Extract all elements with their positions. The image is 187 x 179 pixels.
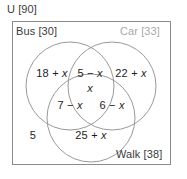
region-value-outside-all: 5 (30, 129, 36, 141)
region-value-bus-only: 18 + x (36, 67, 67, 79)
region-value-bus-walk: 7 − x (57, 99, 82, 111)
set-label-walk: Walk [38] (116, 148, 162, 160)
car-circle (68, 42, 156, 130)
region-value-bus-car-walk: x (87, 82, 93, 94)
region-value-car-walk: 6 − x (99, 99, 124, 111)
set-label-bus: Bus [30] (16, 25, 57, 37)
region-value-bus-car: 5 − x (77, 67, 102, 79)
venn-diagram-figure: U [90] Bus [30] Car [33] Walk [38] 18 + … (0, 0, 187, 179)
region-value-car-only: 22 + x (115, 67, 146, 79)
set-label-car: Car [33] (120, 25, 160, 37)
bus-circle (26, 42, 114, 130)
region-value-walk-only: 25 + x (75, 129, 106, 141)
